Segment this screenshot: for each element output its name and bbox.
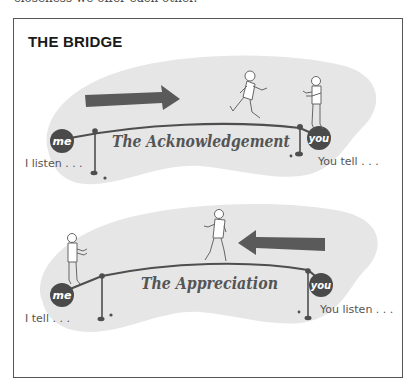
caption-you-listen: You listen . . .	[320, 303, 393, 316]
svg-text:me: me	[53, 289, 72, 302]
you-circle: you	[309, 273, 333, 297]
svg-text:me: me	[53, 135, 72, 148]
me-circle: me	[50, 129, 74, 153]
you-circle: you	[307, 126, 331, 150]
me-circle: me	[50, 283, 74, 307]
caption-you-tell: You tell . . .	[318, 155, 379, 168]
bridge-name-appreciation: The Appreciation	[141, 273, 278, 293]
bridge-name-acknowledgement: The Acknowledgement	[112, 131, 290, 151]
svg-text:you: you	[311, 280, 332, 291]
caption-i-listen: I listen . . .	[25, 157, 83, 170]
svg-text:you: you	[309, 133, 330, 144]
caption-i-tell: I tell . . .	[25, 312, 70, 325]
